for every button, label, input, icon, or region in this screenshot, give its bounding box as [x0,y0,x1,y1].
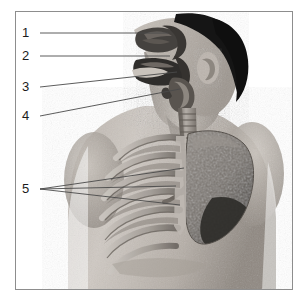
diagram-root: 1 2 3 4 5 [0,0,306,303]
diagram-frame [15,11,293,290]
label-3: 3 [22,80,29,93]
label-1: 1 [22,26,29,39]
label-2: 2 [22,49,29,62]
label-4: 4 [22,109,29,122]
label-5: 5 [22,182,29,195]
anatomy-illustration [16,12,293,290]
ear [197,52,219,84]
